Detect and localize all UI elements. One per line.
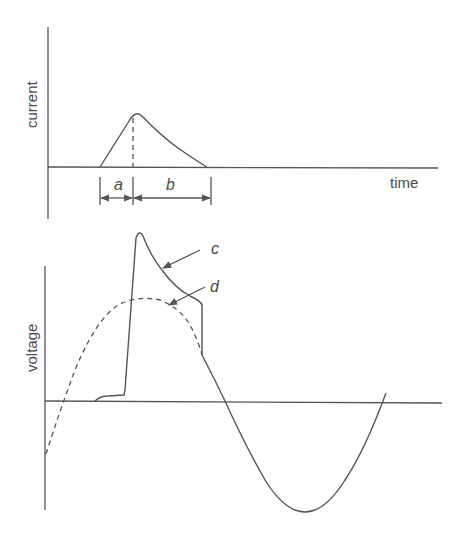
curve-c-label: c [211, 240, 219, 257]
label-c-arrow [163, 250, 200, 268]
interval-a-label: a [114, 176, 123, 193]
time-axis-label: time [390, 174, 418, 191]
curve-d-label: d [210, 278, 220, 295]
figure: a b time current c d voltage [0, 0, 469, 539]
interval-b-label: b [166, 176, 175, 193]
voltage-axis-label: voltage [23, 324, 40, 372]
curve-c-solid [95, 233, 386, 512]
curve-d-dashed [46, 298, 202, 454]
current-axis-label: current [23, 80, 40, 128]
current-pulse-curve [100, 114, 207, 167]
current-x-axis [48, 167, 438, 168]
current-panel: a b time current [23, 27, 438, 219]
voltage-panel: c d voltage [23, 233, 442, 512]
diagram-canvas: a b time current c d voltage [0, 0, 469, 539]
